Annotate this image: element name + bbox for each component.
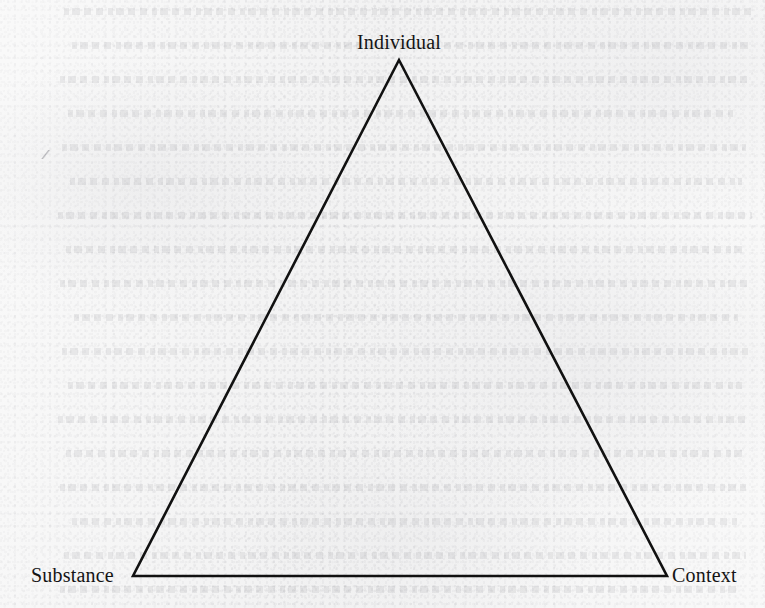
- vertex-label-individual: Individual: [357, 32, 441, 52]
- scanned-page: Individual Substance Context: [0, 0, 765, 608]
- vertex-label-substance: Substance: [31, 565, 114, 585]
- triangle-diagram: [0, 0, 765, 608]
- vertex-label-context: Context: [672, 565, 737, 585]
- triangle-outline: [133, 60, 667, 576]
